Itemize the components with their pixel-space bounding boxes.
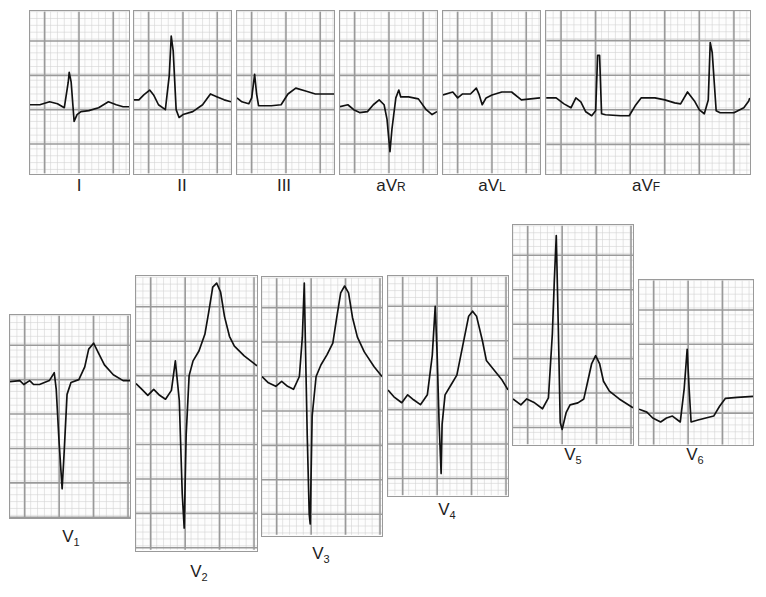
lead-label-aVL: aVL: [478, 176, 505, 196]
lead-panel-V2: [135, 275, 258, 552]
lead-panel-II: [133, 10, 232, 175]
lead-panel-III: [236, 10, 335, 175]
lead-label-V6: V6: [686, 445, 703, 466]
lead-label-V5: V5: [564, 445, 581, 466]
ecg-trace-V6: [639, 280, 753, 445]
ecg-trace-V4: [388, 276, 508, 496]
ecg-trace-V1: [10, 315, 130, 518]
lead-panel-aVL: [442, 10, 541, 175]
lead-label-aVR: aVR: [376, 176, 405, 196]
lead-label-I: I: [77, 176, 82, 196]
ecg-trace-V2: [136, 276, 257, 551]
ecg-trace-aVL: [443, 11, 540, 174]
lead-panel-I: [29, 10, 130, 175]
ecg-trace-V5: [513, 225, 633, 445]
lead-label-III: III: [277, 176, 291, 196]
lead-panel-V3: [261, 276, 383, 537]
lead-panel-aVF: [545, 10, 751, 175]
lead-label-II: II: [177, 176, 186, 196]
ecg-trace-I: [30, 11, 129, 174]
ecg-trace-aVR: [340, 11, 437, 174]
ecg-trace-III: [237, 11, 334, 174]
ecg-trace-V3: [262, 277, 382, 536]
ecg-trace-II: [134, 11, 231, 174]
lead-panel-V5: [512, 224, 634, 446]
lead-panel-V6: [638, 279, 754, 446]
lead-panel-aVR: [339, 10, 438, 175]
ecg-waveform-V2: [136, 283, 257, 528]
ecg-waveform-V5: [513, 236, 633, 430]
lead-label-V1: V1: [62, 527, 79, 548]
lead-panel-V4: [387, 275, 509, 497]
lead-label-V4: V4: [438, 500, 455, 521]
lead-label-aVF: aVF: [632, 176, 660, 196]
lead-label-V3: V3: [312, 544, 329, 565]
lead-label-V2: V2: [190, 562, 207, 583]
lead-panel-V1: [9, 314, 131, 519]
ecg-trace-aVF: [546, 11, 750, 174]
ecg-waveform-V4: [388, 306, 508, 473]
